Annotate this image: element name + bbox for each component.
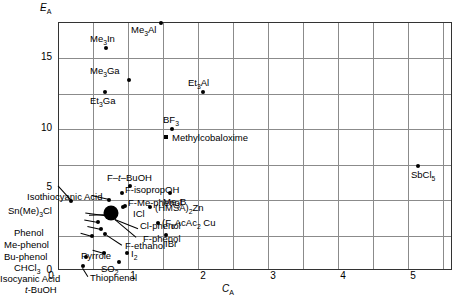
data-point-icl	[121, 205, 125, 209]
label-sbcl5: SbCl5	[411, 170, 435, 182]
x-tick-label: 5	[406, 270, 420, 281]
gridline-vertical	[93, 23, 94, 269]
data-point-f-isopropoh	[120, 191, 124, 195]
data-point-phenol-cluster	[104, 206, 119, 221]
label-phenol: Phenol	[14, 228, 44, 238]
label-t-buoh: t-BuOH	[25, 285, 57, 295]
gridline-horizontal	[59, 200, 451, 201]
label-sn-me3-cl: Sn(Me)3Cl	[8, 206, 52, 218]
y-tick-label: 10	[30, 122, 52, 133]
x-tick-label: 3	[266, 270, 280, 281]
gridline-horizontal	[59, 236, 451, 237]
data-point-bf3	[170, 127, 174, 131]
data-point-me3in	[104, 46, 108, 50]
label-methylcobaloxime: Methylcobaloxime	[172, 133, 248, 143]
x-tick-label: 2	[196, 270, 210, 281]
leader-line-fphenol	[114, 219, 136, 238]
label-hmsa2zn: (HMSA)2Zn	[155, 203, 204, 215]
plot-area: Me3Al Me3In Me3Ga Et3Ga Et3Al BF3 Methyl…	[58, 22, 452, 270]
y-axis-title: EA	[40, 2, 51, 15]
label-me3al: Me3Al	[131, 25, 156, 37]
label-bu-phenol: Bu-phenol	[4, 252, 47, 262]
label-icl: ICl	[133, 209, 145, 219]
label-isothiocyanic-acid: Isothiocyanic Acid	[27, 192, 103, 202]
label-ibr: IBr	[165, 239, 177, 249]
leader-line-thiophenol	[82, 268, 88, 277]
label-f-isopropoh: F-isopropOH	[125, 185, 179, 195]
gridline-vertical	[443, 23, 444, 269]
gridline-horizontal	[59, 129, 451, 130]
data-point-methylcobaloxime	[164, 135, 168, 139]
gridline-vertical	[233, 23, 234, 269]
gridline-vertical	[198, 23, 199, 269]
x-axis-title: CA	[222, 283, 234, 296]
gridline-horizontal	[59, 58, 451, 59]
gridline-vertical	[303, 23, 304, 269]
gridline-horizontal	[59, 94, 451, 95]
y-tick-label: 15	[30, 51, 52, 62]
data-point-i2	[125, 251, 129, 255]
label-me3ga: Me3Ga	[90, 66, 120, 78]
gridline-vertical	[338, 23, 339, 269]
chart-container: EA 15 10 5 0 0 1 2 3 4 5 CA	[0, 0, 455, 301]
label-i2: I2	[131, 249, 137, 261]
x-tick-label: 4	[336, 270, 350, 281]
gridline-horizontal	[59, 165, 451, 166]
data-point-et3ga	[103, 90, 107, 94]
data-point-me3ga	[127, 78, 131, 82]
label-thiophenol: Thiophenol	[90, 273, 137, 283]
label-et3ga: Et3Ga	[90, 96, 115, 108]
label-bf3: BF3	[163, 115, 179, 127]
label-me3in: Me3In	[90, 34, 115, 46]
label-me-phenol: Me-phenol	[4, 240, 49, 250]
label-et3al: Et3Al	[188, 78, 209, 90]
data-point-et3al	[201, 90, 205, 94]
gridline-vertical	[373, 23, 374, 269]
label-pyrrole: Pyrrole	[81, 251, 111, 261]
label-f-t-buoh: F–t–BuOH	[107, 173, 152, 183]
data-point-me3al	[159, 21, 163, 25]
gridline-vertical	[268, 23, 269, 269]
gridline-vertical	[408, 23, 409, 269]
label-f6acac2cu: (F6AcAc2 Cu	[162, 218, 216, 230]
data-point-sbcl5	[416, 164, 420, 168]
label-isocyanic-acid: Isocyanic Acid	[0, 274, 60, 284]
